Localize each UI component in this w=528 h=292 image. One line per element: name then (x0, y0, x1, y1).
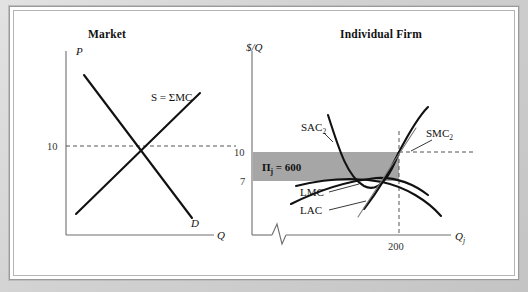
profit-label: Πj = 600 (262, 161, 302, 176)
figure-inner-plate: Market P Q 10 S = ΣMC D (13, 10, 515, 276)
panel-market: Market P Q 10 S = ΣMC D (14, 11, 236, 275)
sac2-label-base: SAC (301, 121, 322, 133)
market-supply-curve-label: S = ΣMC (151, 91, 192, 103)
market-y-tick-10: 10 (47, 141, 58, 152)
firm-y-tick-10: 10 (234, 147, 245, 158)
figure-root: Market P Q 10 S = ΣMC D (0, 0, 528, 292)
smc2-label: SMC2 (426, 127, 453, 142)
firm-x-axis-label: Qj (455, 230, 465, 245)
firm-x-axis-label-base: Q (455, 230, 463, 242)
firm-labels: $/Q Qj 10 7 200 Πj = 600 SAC2 SMC2 LMC L… (236, 11, 514, 275)
firm-y-axis-label: $/Q (246, 41, 263, 53)
sac2-label-sub: 2 (322, 127, 326, 136)
lmc-label: LMC (300, 186, 324, 198)
sac2-label: SAC2 (301, 121, 326, 136)
firm-y-tick-7: 7 (240, 176, 245, 187)
lac-label: LAC (300, 204, 322, 216)
market-y-axis-label: P (75, 45, 83, 57)
smc2-label-base: SMC (426, 127, 449, 139)
market-demand-curve-label: D (190, 217, 199, 229)
market-x-axis-label: Q (217, 229, 225, 241)
smc2-label-sub: 2 (449, 133, 453, 142)
market-labels: P Q 10 S = ΣMC D (14, 11, 236, 275)
firm-x-tick-200: 200 (388, 241, 404, 252)
firm-x-axis-label-sub: j (462, 236, 465, 245)
profit-label-rest: = 600 (273, 161, 302, 173)
panel-individual-firm: Individual Firm (236, 11, 514, 275)
